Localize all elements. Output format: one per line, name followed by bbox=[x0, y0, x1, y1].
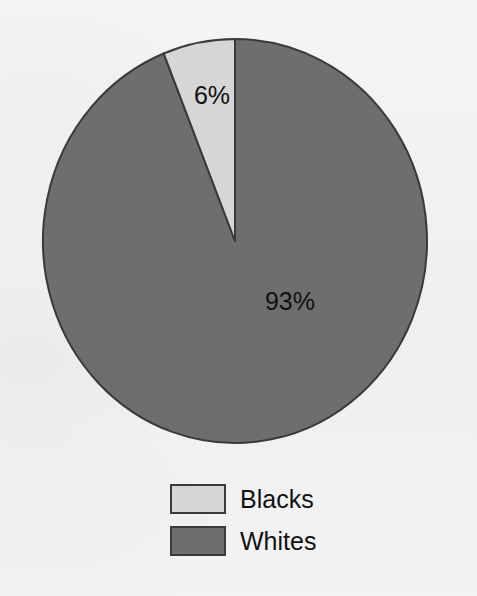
legend-swatch-blacks bbox=[170, 484, 226, 514]
pie-chart-figure: 6% 93% Blacks Whites bbox=[0, 0, 477, 596]
pie-label-blacks: 6% bbox=[194, 81, 230, 109]
pie-label-whites: 93% bbox=[265, 287, 315, 315]
chart-legend: Blacks Whites bbox=[170, 482, 316, 566]
legend-swatch-whites bbox=[170, 526, 226, 556]
legend-label-whites: Whites bbox=[240, 529, 316, 554]
legend-label-blacks: Blacks bbox=[240, 487, 314, 512]
legend-item-blacks[interactable]: Blacks bbox=[170, 482, 316, 516]
legend-item-whites[interactable]: Whites bbox=[170, 524, 316, 558]
